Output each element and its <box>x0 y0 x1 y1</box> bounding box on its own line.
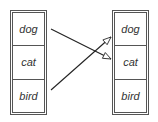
arrow-bird-to-dog <box>51 37 111 90</box>
arrow-dog-to-cat <box>51 29 111 59</box>
arrows-layer <box>0 0 158 122</box>
